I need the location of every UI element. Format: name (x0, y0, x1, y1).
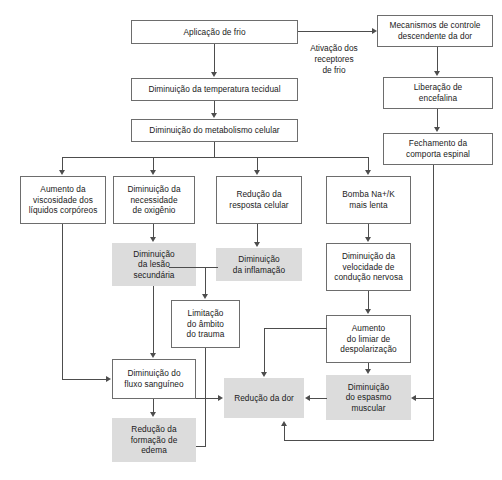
arrowhead-bomba (365, 170, 371, 175)
arrowhead-metabolismo (211, 113, 217, 118)
arrowhead-viscosidade (59, 170, 65, 175)
arrowhead-temperatura (211, 72, 217, 77)
edge-encefalina-to-comporta (437, 109, 438, 127)
edge-conducao-to-limiar (368, 291, 369, 309)
node-aplicacao-frio[interactable]: Aplicação de frio (131, 20, 298, 44)
edge-resposta-to-inflamacao (257, 224, 258, 242)
node-diminuicao-oxigenio[interactable]: Diminuição da necessidade de oxigênio (113, 176, 195, 224)
arrowhead-oxigenio (150, 170, 156, 175)
arrowhead-reducao-dor-left (218, 395, 223, 401)
node-fechamento-comporta[interactable]: Fechamento da comporta espinal (383, 133, 493, 165)
edge-bar-to-oxigenio (153, 157, 154, 170)
node-diminuicao-temperatura[interactable]: Diminuição da temperatura tecidual (131, 78, 298, 101)
edge-aplicacao-to-temperatura (214, 44, 215, 72)
node-aumento-limiar-despolarizacao[interactable]: Aumento do limiar de despolarização (326, 315, 411, 363)
edge-rail-to-espasmo (416, 398, 434, 399)
arrowhead-fluxo-from-lesao (150, 353, 156, 358)
arrowhead-reducao-dor-top (261, 372, 267, 377)
node-diminuicao-lesao-secundaria[interactable]: Diminuição da lesão secundária (112, 243, 196, 286)
edge-bar-to-viscosidade (62, 157, 63, 170)
node-reducao-da-dor[interactable]: Redução da dor (224, 378, 304, 418)
edge-metabolismo-down (214, 142, 215, 157)
edge-limiar-left (264, 328, 327, 329)
arrowhead-limitacao (202, 294, 208, 299)
page-bottom-strip (0, 470, 502, 480)
distribution-bar (62, 157, 369, 158)
node-diminuicao-conducao-nervosa[interactable]: Diminuição da velocidade de condução ner… (326, 243, 411, 291)
node-reducao-formacao-edema[interactable]: Redução da formação de edema (112, 418, 196, 462)
arrowhead-conducao (365, 237, 371, 242)
node-diminuicao-inflamacao[interactable]: Diminuição da inflamação (216, 248, 302, 281)
edge-mecanismos-to-encefalina (437, 47, 438, 71)
node-mecanismos-controle[interactable]: Mecanismos de controle descendente da do… (377, 15, 493, 47)
edge-viscosidade-down (62, 224, 63, 380)
edge-lesao-to-fluxo (153, 286, 154, 353)
arrowhead-espasmo-right (411, 395, 416, 401)
arrowhead-comporta (434, 127, 440, 132)
node-diminuicao-fluxo-sanguineo[interactable]: Diminuição do fluxo sanguíneo (112, 359, 196, 399)
arrowhead-encefalina (434, 71, 440, 76)
edge-bomba-to-conducao (368, 224, 369, 237)
node-bomba-sodio-potassio[interactable]: Bomba Na+/K mais lenta (326, 176, 411, 224)
arrowhead-reducao-dor-bottom (281, 421, 287, 426)
node-liberacao-encefalina[interactable]: Liberação de encefalina (383, 77, 493, 109)
edge-espasmo-to-dor (310, 398, 327, 399)
node-diminuicao-espasmo-muscular[interactable]: Diminuição do espasmo muscular (326, 375, 411, 420)
arrowhead-lesao-secundaria (150, 237, 156, 242)
edge-join-to-limitacao (205, 267, 206, 294)
edge-limitacao-join-left (196, 446, 206, 447)
edge-limiar-down-to-dor (264, 328, 265, 372)
edge-bar-to-resposta-celular (257, 157, 258, 170)
edge-join-lesao-inflamacao (169, 267, 218, 268)
edge-bar-to-bomba (368, 157, 369, 170)
edge-rail-up-to-dor (284, 426, 285, 441)
node-limitacao-ambito-trauma[interactable]: Limitação do âmbito do trauma (171, 300, 240, 348)
arrowhead-inflamacao (254, 242, 260, 247)
node-diminuicao-metabolismo[interactable]: Diminuição do metabolismo celular (131, 119, 298, 142)
edge-rail-bottom (284, 440, 434, 441)
node-reducao-resposta-celular[interactable]: Redução da resposta celular (216, 176, 302, 224)
edge-limitacao-down (205, 348, 206, 447)
node-aumento-viscosidade[interactable]: Aumento da viscosidade dos líquidos corp… (20, 176, 106, 224)
arrowhead-limiar (365, 309, 371, 314)
edge-temperatura-to-metabolismo (214, 101, 215, 113)
arrowhead-mecanismos (372, 28, 377, 34)
edge-label-ativacao-receptores: Ativação dos receptores de frio (297, 43, 371, 76)
arrowhead-resposta-celular (254, 170, 260, 175)
edge-fluxo-to-dor (196, 398, 218, 399)
arrowhead-espasmo (365, 369, 371, 374)
edge-fluxo-to-edema (153, 399, 154, 412)
edge-oxigenio-to-lesao (153, 224, 154, 237)
arrowhead-fluxo-from-viscosidade (106, 376, 111, 382)
edge-viscosidade-to-fluxo (62, 379, 106, 380)
edge-aplicacao-to-mecanismos (298, 31, 372, 32)
arrowhead-edema (150, 412, 156, 417)
flowchart-canvas: Aplicação de frio Mecanismos de controle… (0, 0, 502, 480)
arrowhead-reducao-dor-right (305, 395, 310, 401)
